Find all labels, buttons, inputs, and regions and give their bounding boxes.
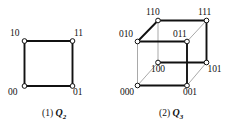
vertex-label-00: 00: [8, 88, 17, 98]
caption-q3-number: (2): [159, 108, 170, 118]
panel-q3-visible-edges: [138, 21, 207, 86]
vertex-node-111: [204, 18, 209, 23]
vertex-label-100: 100: [151, 65, 165, 75]
vertex-node-10: [22, 39, 27, 44]
vertex-label-10: 10: [10, 29, 19, 39]
edge-110-010: [138, 21, 159, 42]
vertex-node-110: [156, 18, 161, 23]
caption-q3: (2) Q3: [159, 108, 183, 121]
vertex-node-010: [135, 39, 140, 44]
vertex-label-101: 101: [208, 65, 222, 75]
caption-q2-subscript: 2: [63, 113, 67, 121]
panel-q2-visible-edges: [25, 41, 73, 86]
vertex-label-11: 11: [74, 29, 83, 39]
caption-q2: (1) Q2: [42, 108, 66, 121]
vertex-label-110: 110: [146, 8, 160, 18]
edge-101-001: [187, 63, 207, 86]
caption-q3-symbol: Q: [172, 107, 179, 118]
hypercube-figure: 10110001110111010011100101000001 (1) Q2 …: [0, 0, 228, 131]
vertex-label-111: 111: [198, 8, 211, 18]
caption-q3-subscript: 3: [180, 113, 184, 121]
caption-q2-symbol: Q: [55, 107, 62, 118]
vertex-node-11: [70, 39, 75, 44]
caption-q2-number: (1): [42, 108, 53, 118]
vertex-label-001: 001: [183, 88, 197, 98]
edge-111-011: [187, 21, 207, 42]
vertex-label-000: 000: [120, 88, 134, 98]
vertex-label-010: 010: [119, 30, 133, 40]
vertex-label-01: 01: [73, 88, 82, 98]
vertex-node-011: [185, 39, 190, 44]
vertex-label-011: 011: [173, 30, 187, 40]
vertex-node-000: [135, 83, 140, 88]
figure-canvas: [0, 0, 228, 131]
vertex-node-00: [22, 84, 27, 89]
